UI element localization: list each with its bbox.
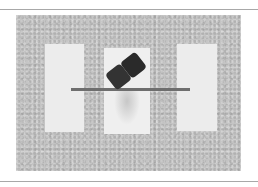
shadow-wake bbox=[114, 91, 140, 125]
top-rule bbox=[0, 9, 258, 10]
experiment-photo bbox=[16, 15, 241, 171]
bottom-rule bbox=[0, 181, 258, 182]
horizontal-rod bbox=[71, 88, 190, 91]
